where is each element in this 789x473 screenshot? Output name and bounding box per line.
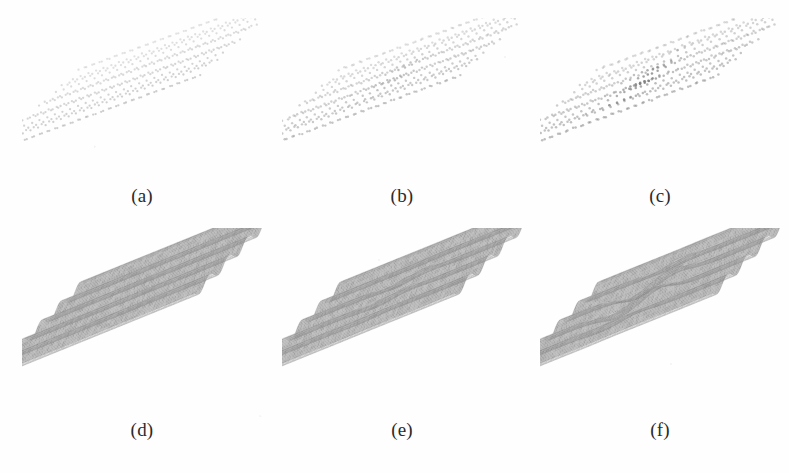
panel-d [22,228,262,410]
panel-c-canvas [540,18,780,183]
panel-a-canvas [22,18,262,183]
panel-c [540,18,780,183]
panel-a-label: (a) [22,186,262,205]
panel-e [282,228,522,410]
panel-c-label: (c) [540,186,780,205]
figure-root: (a) (b) (c) (d) (e) (f) [0,0,789,473]
panel-f-canvas [540,228,780,410]
panel-b-label: (b) [282,186,522,205]
panel-f [540,228,780,410]
panel-e-canvas [282,228,522,410]
panel-b-canvas [282,18,522,183]
panel-e-label: (e) [282,420,522,439]
panel-f-label: (f) [540,420,780,439]
panel-b [282,18,522,183]
panel-a [22,18,262,183]
panel-d-canvas [22,228,262,410]
panel-d-label: (d) [22,420,262,439]
